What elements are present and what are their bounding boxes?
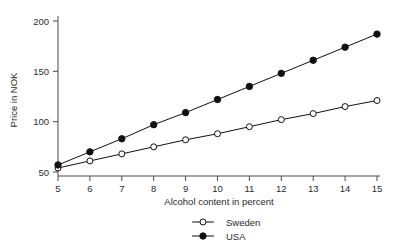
legend-label-sweden: Sweden (226, 217, 260, 228)
data-point-sweden-13 (310, 111, 316, 117)
x-tick-group: 56789101112131415 (55, 176, 382, 194)
data-point-usa-11 (246, 83, 252, 89)
data-point-usa-10 (214, 96, 220, 102)
x-tick-label: 8 (151, 183, 156, 194)
data-point-usa-14 (342, 44, 348, 50)
chart-figure: 50100150200 Price in NOK 567891011121314… (0, 0, 396, 250)
y-tick-label: 100 (33, 116, 49, 127)
x-tick-label: 15 (372, 183, 383, 194)
data-point-usa-12 (278, 70, 284, 76)
x-tick-label: 6 (87, 183, 92, 194)
data-point-sweden-9 (183, 137, 189, 143)
data-point-usa-13 (310, 57, 316, 63)
y-tick-label: 150 (33, 66, 49, 77)
data-point-sweden-7 (119, 151, 125, 157)
data-point-sweden-12 (278, 117, 284, 123)
legend-marker-usa (200, 233, 206, 239)
data-point-sweden-11 (246, 124, 252, 130)
y-tick-group: 50100150200 (33, 16, 58, 178)
x-tick-label: 12 (276, 183, 287, 194)
y-tick-label: 200 (33, 16, 49, 27)
x-axis-title: Alcohol content in percent (164, 196, 274, 207)
data-point-usa-7 (119, 136, 125, 142)
data-point-sweden-15 (374, 98, 380, 104)
x-tick-label: 11 (244, 183, 254, 194)
y-tick-label: 50 (38, 167, 49, 178)
legend-marker-sweden (200, 219, 206, 225)
x-axis: 56789101112131415 Alcohol content in per… (55, 176, 382, 207)
x-tick-label: 14 (340, 183, 351, 194)
chart-legend: SwedenUSA (192, 217, 260, 242)
data-point-sweden-6 (87, 158, 93, 164)
data-point-usa-8 (151, 121, 157, 127)
y-axis-title: Price in NOK (8, 72, 19, 128)
data-point-usa-15 (374, 31, 380, 37)
data-point-usa-9 (182, 109, 188, 115)
data-point-sweden-10 (215, 131, 221, 137)
data-point-usa-6 (87, 149, 93, 155)
series-group (55, 31, 380, 171)
x-tick-label: 9 (183, 183, 188, 194)
legend-label-usa: USA (226, 231, 246, 242)
line-chart: 50100150200 Price in NOK 567891011121314… (0, 0, 396, 250)
x-tick-label: 5 (55, 183, 60, 194)
data-point-sweden-8 (151, 144, 157, 150)
x-tick-label: 10 (212, 183, 223, 194)
y-axis: 50100150200 Price in NOK (8, 16, 58, 178)
data-point-sweden-14 (342, 104, 348, 110)
data-point-usa-5 (55, 162, 61, 168)
x-tick-label: 7 (119, 183, 124, 194)
x-tick-label: 13 (308, 183, 319, 194)
